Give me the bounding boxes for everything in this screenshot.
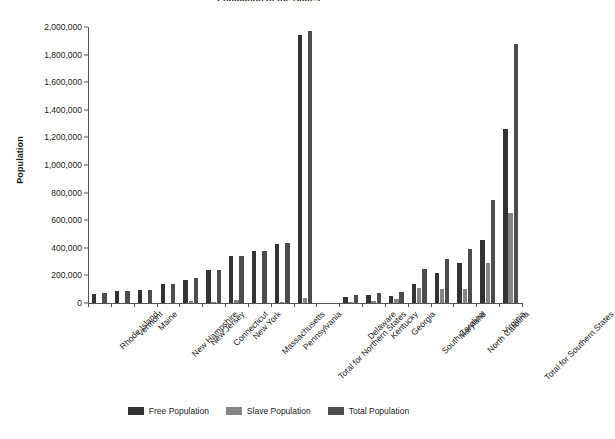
x-axis-tick-mark (294, 303, 295, 307)
y-axis-tick-label: 1,800,000 (44, 50, 88, 60)
y-axis-tick-label: 1,400,000 (44, 105, 88, 115)
x-axis-tick-mark (431, 303, 432, 307)
x-axis-tick-mark (316, 303, 317, 307)
x-axis-line (88, 303, 523, 304)
legend-swatch-icon (328, 407, 344, 415)
x-axis-tick-mark (499, 303, 500, 307)
chart-title: Population of the States (0, 0, 537, 1)
y-axis-tick-label: 200,000 (51, 270, 88, 280)
y-axis-title: Population (15, 115, 25, 205)
y-axis-tick-label: 1,600,000 (44, 77, 88, 87)
y-axis-tick-label: 1,000,000 (44, 160, 88, 170)
y-axis-tick-label: 400,000 (51, 243, 88, 253)
x-axis-tick-mark (225, 303, 226, 307)
plot-area: 0200,000400,000600,000800,0001,000,0001,… (88, 27, 522, 303)
legend-item-label: Slave Population (247, 406, 311, 416)
legend-swatch-icon (226, 407, 242, 415)
x-axis-tick-mark (179, 303, 180, 307)
x-axis-tick-label: Maryland (456, 309, 488, 341)
x-axis-tick-mark (339, 303, 340, 307)
legend-item-label: Total Population (349, 406, 410, 416)
x-axis-tick-mark (134, 303, 135, 307)
x-axis-tick-mark (88, 303, 89, 307)
x-axis-tick-mark (157, 303, 158, 307)
y-axis-tick-label: 1,200,000 (44, 132, 88, 142)
x-axis-tick-mark (385, 303, 386, 307)
y-axis-tick-label: 800,000 (51, 188, 88, 198)
x-axis-tick-mark (522, 303, 523, 307)
x-axis-tick-mark (453, 303, 454, 307)
bar (508, 213, 512, 303)
bar-group (88, 27, 522, 303)
x-axis-tick-mark (202, 303, 203, 307)
y-axis-tick-label: 600,000 (51, 215, 88, 225)
legend-item[interactable]: Slave Population (226, 406, 311, 416)
x-axis-tick-label: Total for Southern States (542, 309, 615, 382)
chart-legend: Free PopulationSlave PopulationTotal Pop… (0, 406, 537, 416)
x-axis-tick-label: Total for Northern States (336, 309, 408, 381)
legend-swatch-icon (128, 407, 144, 415)
x-axis-tick-mark (408, 303, 409, 307)
x-axis-tick-mark (271, 303, 272, 307)
legend-item-label: Free Population (149, 406, 209, 416)
bar (514, 44, 518, 303)
legend-item[interactable]: Total Population (328, 406, 410, 416)
y-axis-tick-label: 2,000,000 (44, 22, 88, 32)
x-axis-tick-mark (362, 303, 363, 307)
bars-layer (88, 27, 522, 303)
x-axis-tick-mark (248, 303, 249, 307)
legend-item[interactable]: Free Population (128, 406, 209, 416)
x-axis-tick-mark (111, 303, 112, 307)
x-axis-tick-mark (476, 303, 477, 307)
bar (503, 129, 507, 303)
